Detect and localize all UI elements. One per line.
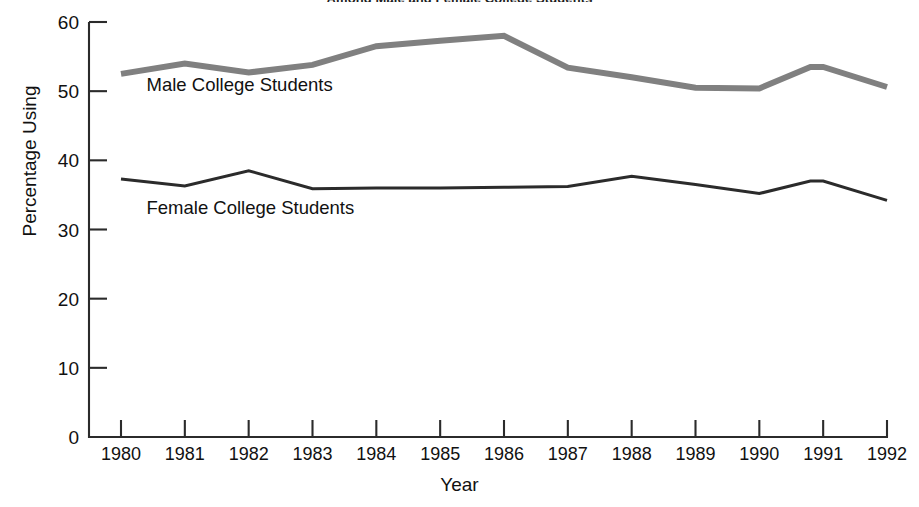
y-tick-label: 0 [68, 427, 79, 448]
x-tick-label: 1987 [548, 444, 588, 464]
x-tick-label: 1986 [484, 444, 524, 464]
x-tick-label: 1983 [292, 444, 332, 464]
line-plot: 6050403020100 19801981198219831984198519… [0, 0, 919, 507]
y-tick-label: 60 [58, 12, 79, 33]
y-tick-label: 10 [58, 358, 79, 379]
series-inline-label: Male College Students [147, 74, 333, 95]
series-layer [121, 36, 887, 201]
x-tick-label: 1991 [803, 444, 843, 464]
y-tick-label: 40 [58, 150, 79, 171]
x-tick-label: 1982 [229, 444, 269, 464]
x-tick-label: 1984 [356, 444, 396, 464]
x-tick-label: 1981 [165, 444, 205, 464]
chart-container: Among Male and Female College Students P… [0, 0, 919, 507]
x-tick-label: 1989 [675, 444, 715, 464]
y-tick-label: 30 [58, 220, 79, 241]
x-tick-label: 1980 [101, 444, 141, 464]
x-tick-label: 1988 [612, 444, 652, 464]
x-tick-label: 1992 [867, 444, 907, 464]
y-tick-label: 50 [58, 81, 79, 102]
x-axis-ticks: 1980198119821983198419851986198719881989… [101, 420, 907, 464]
y-axis-ticks: 6050403020100 [58, 12, 107, 448]
y-tick-label: 20 [58, 289, 79, 310]
series-inline-label: Female College Students [147, 197, 355, 218]
x-tick-label: 1990 [739, 444, 779, 464]
series-inline-labels: Male College StudentsFemale College Stud… [147, 74, 355, 217]
x-tick-label: 1985 [420, 444, 460, 464]
